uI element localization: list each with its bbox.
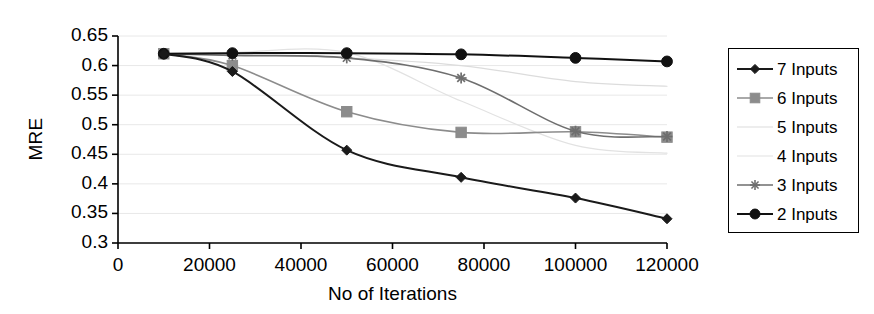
data-point-marker [750,180,760,190]
legend-marker-icon [735,117,775,137]
series-line [164,49,667,153]
legend-marker-icon [735,59,775,79]
data-point-marker [341,48,352,59]
legend-item-5-inputs[interactable]: 5 Inputs [735,114,838,140]
data-point-marker [750,64,759,73]
y-tick-label: 0.6 [82,54,108,76]
series-line [164,54,667,219]
series-7-inputs [159,49,672,224]
y-axis-title: MRE [25,99,47,179]
legend-item-label: 3 Inputs [777,177,838,194]
legend-item-3-inputs[interactable]: 3 Inputs [735,172,838,198]
data-point-marker [662,214,672,224]
chart-figure: MRE No of Iterations 0.30.350.40.450.50.… [0,0,874,314]
series-line [164,53,667,61]
legend-marker-icon [735,88,775,108]
y-tick-label: 0.45 [71,142,108,164]
legend-item-2-inputs[interactable]: 2 Inputs [735,201,838,227]
y-tick-label: 0.4 [82,172,108,194]
y-tick-label: 0.65 [71,24,108,46]
y-tick-label: 0.3 [82,231,108,253]
data-point-marker [570,126,581,137]
legend-item-label: 7 Inputs [777,61,838,78]
series-4-inputs [164,49,667,153]
chart-legend: 7 Inputs6 Inputs5 Inputs4 Inputs3 Inputs… [728,48,859,233]
legend-item-6-inputs[interactable]: 6 Inputs [735,85,838,111]
data-point-marker [662,56,673,67]
data-point-marker [456,72,467,83]
legend-marker-icon [735,146,775,166]
data-point-marker [750,93,760,103]
legend-marker-icon [735,175,775,195]
legend-item-7-inputs[interactable]: 7 Inputs [735,56,838,82]
data-point-marker [570,52,581,63]
data-point-marker [456,49,467,60]
x-axis-title: No of Iterations [68,283,717,305]
legend-item-4-inputs[interactable]: 4 Inputs [735,143,838,169]
x-tick-label: 120000 [612,254,722,276]
legend-item-label: 4 Inputs [777,148,838,165]
y-tick-label: 0.55 [71,83,108,105]
legend-item-label: 6 Inputs [777,90,838,107]
data-point-marker [342,145,352,155]
legend-marker-icon [735,204,775,224]
legend-item-label: 5 Inputs [777,119,838,136]
data-point-marker [750,209,760,219]
data-point-marker [456,127,466,137]
y-tick-label: 0.35 [71,201,108,223]
data-point-marker [456,172,466,182]
legend-item-label: 2 Inputs [777,206,838,223]
data-point-marker [571,193,581,203]
data-point-marker [227,48,238,59]
y-tick-label: 0.5 [82,113,108,135]
data-point-marker [342,107,352,117]
